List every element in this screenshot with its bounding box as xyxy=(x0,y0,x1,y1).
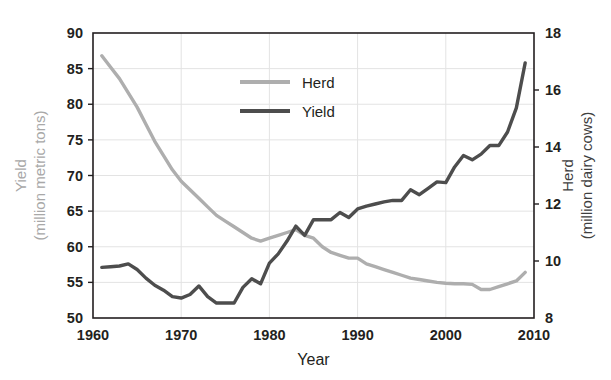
tick-label-left-axis: 65 xyxy=(67,203,83,219)
tick-label-right-axis: 12 xyxy=(545,196,561,212)
legend-label-yield: Yield xyxy=(302,103,335,120)
tick-label-left-axis: 50 xyxy=(67,310,83,326)
tick-label-right-axis: 16 xyxy=(545,82,561,98)
tick-label-left-axis: 75 xyxy=(67,132,83,148)
series-line-yield xyxy=(102,63,525,303)
tick-label-x-axis: 1960 xyxy=(77,327,109,343)
tick-label-x-axis: 2000 xyxy=(430,327,462,343)
tick-label-left-axis: 70 xyxy=(67,168,83,184)
chart-figure: 5055606570758085908101214161819601970198… xyxy=(0,0,611,380)
legend-label-herd: Herd xyxy=(302,74,335,91)
tick-label-x-axis: 1990 xyxy=(341,327,373,343)
tick-label-left-axis: 55 xyxy=(67,274,83,290)
tick-label-left-axis: 90 xyxy=(67,25,83,41)
tick-label-right-axis: 8 xyxy=(545,310,553,326)
tick-label-left-axis: 80 xyxy=(67,96,83,112)
tick-label-x-axis: 2010 xyxy=(518,327,550,343)
left-axis-title-line2: (million metric tons) xyxy=(31,110,48,240)
dairy-herd-yield-line-chart: 5055606570758085908101214161819601970198… xyxy=(0,0,611,380)
tick-label-left-axis: 85 xyxy=(67,61,83,77)
tick-label-x-axis: 1970 xyxy=(165,327,197,343)
right-axis-title-line1: Herd xyxy=(559,159,576,192)
x-axis-title: Year xyxy=(297,351,330,368)
tick-label-left-axis: 60 xyxy=(67,239,83,255)
tick-label-right-axis: 10 xyxy=(545,253,561,269)
tick-label-x-axis: 1980 xyxy=(253,327,285,343)
left-axis-title-line1: Yield xyxy=(12,159,29,192)
right-axis-title-line2: (million dairy cows) xyxy=(578,112,595,240)
tick-label-right-axis: 18 xyxy=(545,25,561,41)
tick-label-right-axis: 14 xyxy=(545,139,561,155)
